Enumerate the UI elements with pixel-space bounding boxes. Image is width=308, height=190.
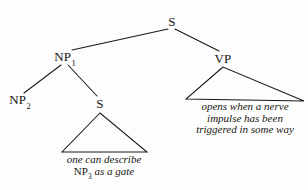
s-gloss-text: one can describe NP3 as a gate	[67, 154, 142, 181]
node-np2-label: NP	[9, 92, 26, 107]
branch-np1-to-np2	[24, 65, 61, 93]
vp-gloss-line-3: triggered in some way	[196, 124, 294, 136]
node-s-lower-label: S	[96, 96, 103, 111]
tree-lines-svg	[0, 0, 308, 190]
node-np2-subscript: 2	[26, 101, 30, 111]
node-np1: NP1	[54, 49, 75, 67]
node-np1-label: NP	[54, 49, 71, 64]
syntax-tree-diagram: S NP1 VP NP2 S one can describe NP3 as a…	[0, 0, 308, 190]
branch-root-s-to-np1	[72, 29, 168, 50]
s-gloss-np3-label: NP	[74, 165, 88, 177]
vp-gloss-line-1: opens when a nerve	[196, 101, 294, 113]
node-root-s-label: S	[168, 14, 175, 29]
node-root-s: S	[168, 14, 175, 30]
s-gloss-np3-subscript: 3	[88, 172, 92, 181]
node-vp: VP	[214, 51, 231, 67]
s-gloss-tail: as a gate	[92, 165, 134, 177]
branch-np1-to-s	[68, 65, 97, 96]
s-gloss-np3: NP3	[74, 165, 92, 177]
node-np1-subscript: 1	[71, 58, 75, 68]
vp-gloss-text: opens when a nerve impulse has been trig…	[196, 101, 294, 136]
s-triangle	[62, 113, 147, 152]
s-gloss-line-2: NP3 as a gate	[67, 166, 142, 182]
vp-triangle	[186, 67, 304, 101]
branch-root-s-to-vp	[175, 29, 219, 51]
node-vp-label: VP	[214, 51, 231, 66]
node-s-lower: S	[96, 96, 103, 112]
node-np2: NP2	[9, 92, 30, 110]
